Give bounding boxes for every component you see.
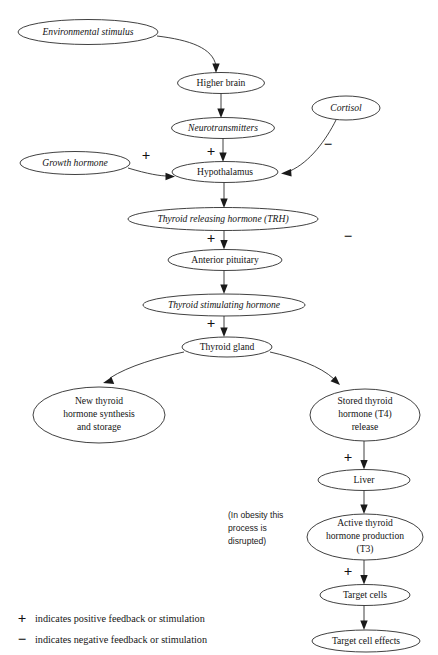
node-label-thyroid-gland: Thyroid gland [200,341,255,352]
arrowhead-to-higher-brain [212,64,219,74]
node-label-new-thyroid-synthesis-line2: hormone synthesis [63,408,135,419]
node-label-higher-brain: Higher brain [197,77,246,88]
arrowhead-to-active-t3 [360,505,367,515]
node-label-trh: Thyroid releasing hormone (TRH) [157,213,288,225]
arrowhead-to-anterior-pituitary [220,240,227,250]
legend-negative-text: indicates negative feedback or stimulati… [35,634,207,645]
node-label-liver: Liver [354,474,376,485]
sign-growth-hormone-to-hypothalamus: + [142,147,151,163]
sign-trh-to-pituitary: + [207,230,216,246]
node-hypothalamus[interactable]: Hypothalamus [172,162,278,183]
arrowhead-to-thyroid-gland [220,328,227,338]
node-label-growth-hormone: Growth hormone [42,157,108,168]
node-target-cells[interactable]: Target cells [320,585,410,606]
node-stored-t4-release[interactable]: Stored thyroid hormone (T4) release [310,389,420,441]
node-label-new-thyroid-synthesis-line3: and storage [77,421,121,432]
node-anterior-pituitary[interactable]: Anterior pituitary [168,250,282,271]
legend-positive-text: indicates positive feedback or stimulati… [35,613,205,624]
node-active-t3[interactable]: Active thyroid hormone production (T3) [307,514,423,560]
node-label-environmental-stimulus: Environmental stimulus [41,26,133,37]
node-cortisol[interactable]: Cortisol [312,96,380,120]
arrowhead-to-trh [220,199,227,209]
arrowhead-to-neurotransmitters [217,109,224,119]
node-liver[interactable]: Liver [318,470,410,491]
node-label-tsh: Thyroid stimulating hormone [168,299,281,310]
arrowhead-new-synthesis [103,377,114,384]
node-label-active-t3-line2: hormone production [326,530,404,541]
legend: + indicates positive feedback or stimula… [18,610,207,647]
arrowhead-to-hypothalamus [219,153,226,163]
edge-thyroid-gland-to-stored-t4 [270,352,334,379]
node-label-active-t3-line3: (T3) [356,543,373,555]
node-environmental-stimulus[interactable]: Environmental stimulus [18,20,158,45]
edge-environmental-stimulus-to-higher-brain [157,36,216,66]
sign-neurotransmitters-to-hypothalamus: + [207,143,216,159]
edge-thyroid-gland-to-new-synthesis [110,352,184,378]
node-label-target-cell-effects: Target cell effects [332,635,400,646]
sign-cortisol-negative: − [324,136,333,152]
node-label-anterior-pituitary: Anterior pituitary [191,254,259,265]
obesity-note-line1: (In obesity this [228,510,283,520]
legend-negative-symbol: − [18,631,27,647]
arrowhead-to-target-cell-effects [360,621,367,631]
thyroid-regulation-diagram: Environmental stimulus Higher brain Cort… [0,0,438,655]
node-label-target-cells: Target cells [343,589,387,600]
node-label-stored-t4-release-line3: release [352,421,379,432]
sign-t4-to-liver: + [344,449,353,465]
node-label-cortisol: Cortisol [330,102,362,113]
node-label-new-thyroid-synthesis-line1: New thyroid [75,395,123,406]
node-trh[interactable]: Thyroid releasing hormone (TRH) [128,208,318,231]
obesity-note: (In obesity this process is disrupted) [228,510,283,546]
obesity-note-line3: disrupted) [228,536,266,546]
node-thyroid-gland[interactable]: Thyroid gland [182,337,272,357]
arrowhead-growth-hormone [166,173,176,180]
node-higher-brain[interactable]: Higher brain [178,73,265,94]
arrowhead-to-tsh [220,285,227,295]
sign-feedback-negative: − [344,228,353,244]
node-growth-hormone[interactable]: Growth hormone [20,152,130,175]
edge-growth-hormone-to-hypothalamus [128,168,168,176]
arrowhead-to-liver [360,460,367,470]
legend-positive-symbol: + [18,610,27,626]
sign-tsh-to-thyroid: + [207,315,216,331]
node-target-cell-effects[interactable]: Target cell effects [312,630,420,652]
node-new-thyroid-synthesis[interactable]: New thyroid hormone synthesis and storag… [33,387,165,443]
node-label-hypothalamus: Hypothalamus [197,166,253,177]
node-neurotransmitters[interactable]: Neurotransmitters [172,118,275,139]
node-tsh[interactable]: Thyroid stimulating hormone [143,294,305,316]
diagram-canvas: Environmental stimulus Higher brain Cort… [0,0,438,655]
obesity-note-line2: process is [228,523,267,533]
arrowhead-to-target-cells [360,575,367,585]
arrowhead-cortisol [281,169,292,176]
node-label-stored-t4-release-line2: hormone (T4) [338,408,392,420]
node-label-stored-t4-release-line1: Stored thyroid [337,395,392,406]
node-label-active-t3-line1: Active thyroid [337,517,393,528]
node-label-neurotransmitters: Neurotransmitters [187,122,258,133]
sign-t3-to-target-cells: + [344,563,353,579]
